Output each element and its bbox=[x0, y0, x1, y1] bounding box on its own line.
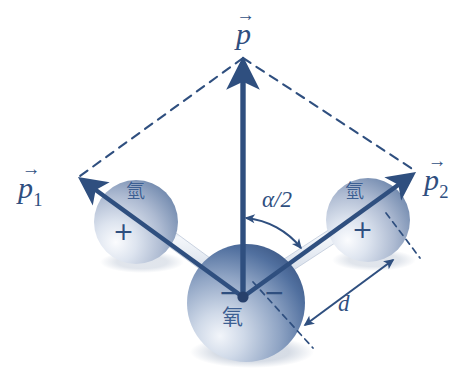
figure-canvas: →p →p1 →p2 α/2 d 氫 氫 氧 + + − − bbox=[0, 0, 472, 378]
label-vector-p2: →p2 bbox=[424, 152, 448, 201]
hydrogen-left-element-label: 氫 bbox=[126, 182, 145, 201]
half-angle-arc bbox=[246, 218, 301, 248]
vector-subscript: 2 bbox=[439, 181, 448, 202]
vector-arrow-icon: → bbox=[18, 160, 42, 179]
vector-subscript: 1 bbox=[33, 189, 42, 210]
oxygen-charge-sign-right: − bbox=[264, 280, 285, 305]
label-half-angle: α/2 bbox=[262, 188, 292, 211]
hydrogen-right-charge-sign: + bbox=[352, 217, 373, 242]
oxygen-element-label: 氧 bbox=[222, 307, 243, 328]
label-vector-p1: →p1 bbox=[18, 160, 42, 209]
parallelogram-construction-lines bbox=[80, 58, 414, 176]
oxygen-sphere bbox=[187, 244, 305, 362]
hydrogen-left-charge-sign: + bbox=[113, 219, 134, 244]
label-bond-length: d bbox=[338, 292, 350, 315]
vector-arrow-icon: → bbox=[236, 6, 253, 25]
vector-arrow-icon: → bbox=[424, 152, 448, 171]
hydrogen-right-element-label: 氫 bbox=[345, 182, 364, 201]
label-resultant-vector-p: →p bbox=[236, 6, 253, 49]
oxygen-charge-sign-left: − bbox=[219, 280, 240, 305]
